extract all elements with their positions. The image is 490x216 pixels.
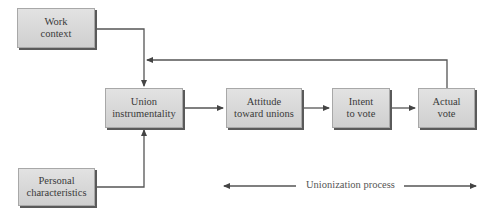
node-union-instrumentality: Unioninstrumentality: [105, 88, 183, 128]
node-intent-to-vote: Intentto vote: [332, 88, 390, 128]
node-label: instrumentality: [112, 108, 176, 120]
process-label: Unionization process: [306, 179, 395, 190]
node-label: Actual: [433, 96, 461, 108]
node-label: Attitude: [234, 96, 294, 108]
node-label: context: [41, 28, 72, 40]
node-label: Union: [112, 96, 176, 108]
node-label: vote: [433, 108, 461, 120]
node-actual-vote: Actualvote: [418, 88, 475, 128]
node-label: Intent: [347, 96, 376, 108]
node-attitude-toward-unions: Attitudetoward unions: [226, 88, 302, 128]
node-label: characteristics: [26, 187, 86, 199]
node-label: toward unions: [234, 108, 294, 120]
node-personal-characteristics: Personalcharacteristics: [18, 168, 95, 206]
node-label: Personal: [26, 175, 86, 187]
node-label: Work: [41, 16, 72, 28]
node-work-context: Workcontext: [17, 8, 95, 48]
node-label: to vote: [347, 108, 376, 120]
